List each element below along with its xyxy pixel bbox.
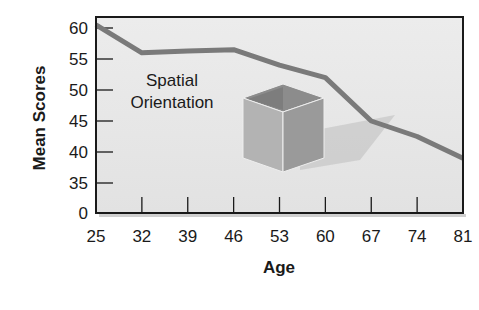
y-tick-label: 35: [69, 174, 88, 193]
x-tick-label: 74: [408, 227, 427, 246]
x-tick-label: 81: [454, 227, 473, 246]
y-tick-label: 55: [69, 50, 88, 69]
x-tick-label: 53: [270, 227, 289, 246]
y-tick-label: 40: [69, 143, 88, 162]
x-axis-title: Age: [263, 258, 295, 278]
y-tick-label: 45: [69, 112, 88, 131]
line-chart: 6055504540350 253239465360677481: [0, 0, 479, 310]
annotation-line-1: Spatial: [130, 70, 213, 92]
x-tick-label: 39: [178, 227, 197, 246]
y-tick-label: 0: [79, 204, 88, 223]
series-annotation: Spatial Orientation: [130, 70, 213, 114]
y-tick-label: 60: [69, 19, 88, 38]
x-tick-label: 46: [224, 227, 243, 246]
x-tick-label: 25: [87, 227, 106, 246]
y-tick-label: 50: [69, 81, 88, 100]
x-tick-label: 67: [362, 227, 381, 246]
x-tick-label: 60: [316, 227, 335, 246]
x-tick-label: 32: [132, 227, 151, 246]
annotation-line-2: Orientation: [130, 92, 213, 114]
y-axis-title: Mean Scores: [30, 66, 50, 171]
